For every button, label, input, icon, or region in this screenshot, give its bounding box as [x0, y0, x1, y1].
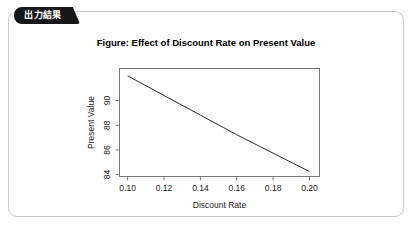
output-result-tab-label: 出力結果: [14, 7, 72, 24]
data-series-line: [128, 76, 310, 172]
y-tick-label: 86: [102, 145, 112, 155]
y-tick-label: 84: [102, 170, 112, 180]
x-axis-ticks: [128, 177, 310, 181]
output-result-tab: 出力結果: [14, 7, 80, 24]
output-result-card: Figure: Effect of Discount Rate on Prese…: [8, 11, 404, 217]
screenshot-root: Figure: Effect of Discount Rate on Prese…: [0, 0, 412, 227]
x-axis-tick-labels: 0.10 0.12 0.14 0.16 0.18 0.20: [119, 183, 318, 193]
present-value-line-chart: 84 86 88 90 Present Value: [9, 12, 403, 216]
y-axis-ticks: [116, 101, 120, 175]
x-tick-label: 0.12: [156, 183, 173, 193]
y-axis-title: Present Value: [86, 96, 96, 149]
x-tick-label: 0.18: [265, 183, 282, 193]
y-axis-tick-labels: 84 86 88 90: [102, 96, 112, 180]
plot-frame: [120, 69, 320, 177]
chart-container: Figure: Effect of Discount Rate on Prese…: [9, 12, 403, 216]
x-tick-label: 0.10: [119, 183, 136, 193]
x-tick-label: 0.20: [301, 183, 318, 193]
x-axis-title: Discount Rate: [193, 200, 247, 210]
x-tick-label: 0.14: [192, 183, 209, 193]
y-tick-label: 88: [102, 120, 112, 130]
x-tick-label: 0.16: [228, 183, 245, 193]
y-tick-label: 90: [102, 96, 112, 106]
